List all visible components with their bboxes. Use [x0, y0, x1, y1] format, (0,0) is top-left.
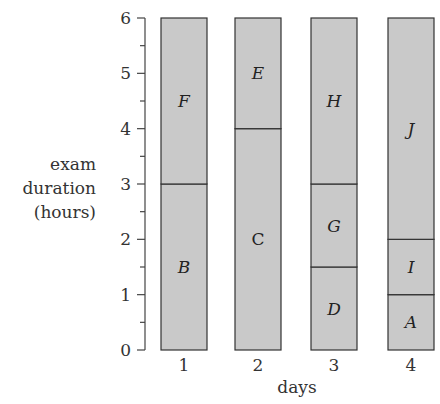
bar-day-2: CE [235, 18, 281, 350]
y-axis-label-line: duration [22, 178, 96, 198]
exam-schedule-chart: 0123456 examduration(hours) BFCEDGHAIJ 1… [0, 0, 440, 404]
x-tick-label: 2 [253, 355, 264, 375]
exam-label: G [327, 216, 341, 236]
bars: BFCEDGHAIJ [161, 18, 434, 350]
x-tick-label: 4 [406, 355, 417, 375]
y-tick-label: 5 [120, 63, 131, 83]
exam-label: I [407, 257, 415, 277]
x-tick-label: 3 [329, 355, 340, 375]
y-axis-label: examduration(hours) [22, 154, 96, 222]
exam-label: C [251, 229, 264, 249]
y-tick-label: 6 [120, 8, 131, 28]
y-axis: 0123456 [120, 8, 145, 360]
y-axis-label-line: exam [50, 154, 96, 174]
y-tick-label: 4 [120, 119, 131, 139]
exam-label: F [177, 91, 191, 111]
x-axis-label: days [277, 377, 316, 397]
exam-label: A [403, 312, 417, 332]
bar-day-3: DGH [311, 18, 357, 350]
exam-label: D [326, 299, 341, 319]
x-tick-label: 1 [179, 355, 190, 375]
y-axis-label-line: (hours) [34, 202, 96, 222]
x-axis-ticks: 1234 [179, 355, 417, 375]
exam-label: B [177, 257, 191, 277]
exam-label: H [326, 91, 343, 111]
y-tick-label: 3 [120, 174, 131, 194]
y-tick-label: 1 [120, 285, 131, 305]
bar-day-1: BF [161, 18, 207, 350]
y-tick-label: 2 [120, 229, 131, 249]
y-tick-label: 0 [120, 340, 131, 360]
exam-label: E [251, 63, 265, 83]
bar-day-4: AIJ [388, 18, 434, 350]
